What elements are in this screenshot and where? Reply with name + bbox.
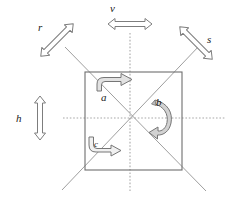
label-b: b [156,97,162,108]
diagonal-mirror-axis-s [65,47,206,191]
symmetry-diagram: v h r s a b c [0,0,234,206]
label-c: c [94,140,98,149]
label-s: s [207,34,211,45]
diagram-canvas [0,0,234,206]
reflection-arrow-v [108,19,152,30]
label-r: r [38,22,42,33]
label-v: v [110,3,115,14]
label-a: a [101,92,107,103]
reflection-arrow-h [35,96,46,140]
rotation-arrow-a [97,74,132,92]
label-h: h [16,113,22,124]
reflection-arrow-r [37,20,77,60]
